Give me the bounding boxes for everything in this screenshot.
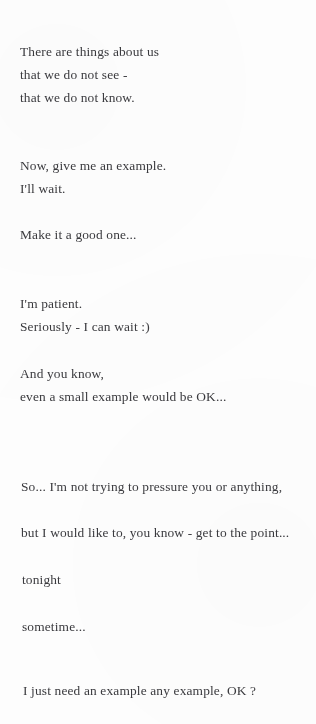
poem-line: I'm patient. — [20, 296, 82, 312]
poem-line: I just need an example any example, OK ? — [23, 683, 256, 699]
poem-line: that we do not know. — [20, 90, 135, 106]
poem-line: There are things about us — [20, 44, 159, 60]
poem-line: tonight — [22, 572, 61, 588]
poem-line: And you know, — [20, 366, 104, 382]
poem-line: I'll wait. — [20, 181, 66, 197]
poem-page: There are things about us that we do not… — [0, 0, 316, 724]
poem-line: Make it a good one... — [20, 227, 137, 243]
poem-line: sometime... — [22, 619, 86, 635]
poem-line: that we do not see - — [20, 67, 128, 83]
poem-line: even a small example would be OK... — [20, 389, 226, 405]
poem-line: but I would like to, you know - get to t… — [21, 525, 289, 541]
poem-line: Seriously - I can wait :) — [20, 319, 150, 335]
poem-line: So... I'm not trying to pressure you or … — [21, 479, 282, 495]
poem-text-block: There are things about us that we do not… — [0, 0, 316, 724]
poem-line: Now, give me an example. — [20, 158, 166, 174]
